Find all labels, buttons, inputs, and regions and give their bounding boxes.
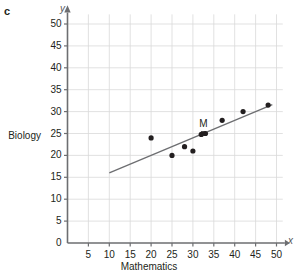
y-axis-tick-label: 30 (40, 107, 62, 117)
y-axis-tick-label: 35 (40, 85, 62, 95)
origin-tick-label: 0 (40, 238, 62, 248)
trendline (109, 105, 272, 173)
y-axis-arrow (64, 5, 70, 12)
y-axis-tick-label: 45 (40, 41, 62, 51)
y-axis-tick-label: 25 (40, 129, 62, 139)
data-point (182, 144, 187, 149)
y-axis-tick-label: 5 (40, 216, 62, 226)
x-axis-arrow (285, 240, 290, 246)
scatter-plot-figure: c y x Biology Mathematics 51015202530354… (0, 0, 298, 272)
y-axis-tick-label: 10 (40, 194, 62, 204)
data-point (220, 118, 225, 123)
y-axis-tick-label: 40 (40, 63, 62, 73)
annotated-point-label: M (199, 119, 207, 129)
data-point (169, 153, 174, 158)
annotated-point-marker (201, 131, 206, 136)
data-point (190, 148, 195, 153)
y-axis-tick-label: 15 (40, 172, 62, 182)
data-point (266, 102, 271, 107)
y-axis-tick-label: 20 (40, 150, 62, 160)
data-point (149, 135, 154, 140)
data-point (240, 109, 245, 114)
y-axis-tick-label: 50 (40, 19, 62, 29)
x-axis-tick-label: 50 (265, 250, 289, 260)
